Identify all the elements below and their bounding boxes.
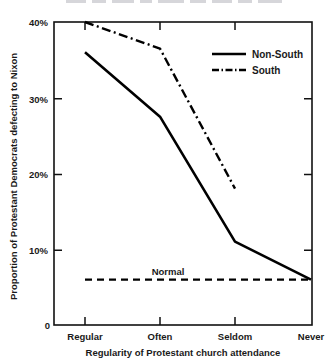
x-axis-ticks bbox=[85, 317, 235, 325]
x-tick-label-seldom: Seldom bbox=[218, 331, 252, 342]
y-tick-label-40: 40% bbox=[29, 17, 49, 28]
y-axis-title: Proportion of Protestant Democrats defec… bbox=[8, 53, 19, 300]
y-axis-ticks-right bbox=[304, 99, 312, 251]
x-axis-title: Regularity of Protestant church attendan… bbox=[86, 347, 281, 358]
y-tick-label-30: 30% bbox=[29, 94, 49, 105]
legend: Non-South South bbox=[212, 49, 303, 76]
y-tick-label-20: 20% bbox=[29, 169, 49, 180]
legend-label-nonsouth: Non-South bbox=[252, 49, 303, 60]
x-tick-label-regular: Regular bbox=[67, 331, 103, 342]
series-line-south bbox=[85, 22, 235, 189]
cropped-title-remnant bbox=[66, 0, 282, 3]
legend-label-south: South bbox=[252, 65, 280, 76]
chart-figure: 40% 30% 20% 10% 0 Proportion of Protesta… bbox=[0, 0, 336, 364]
normal-reference-label: Normal bbox=[152, 266, 185, 277]
x-tick-label-often: Often bbox=[148, 331, 173, 342]
series-line-nonsouth bbox=[85, 52, 311, 279]
y-tick-label-10: 10% bbox=[29, 245, 49, 256]
x-tick-label-never: Never bbox=[298, 331, 325, 342]
y-axis-ticks bbox=[54, 99, 62, 251]
y-tick-label-0: 0 bbox=[45, 320, 50, 331]
